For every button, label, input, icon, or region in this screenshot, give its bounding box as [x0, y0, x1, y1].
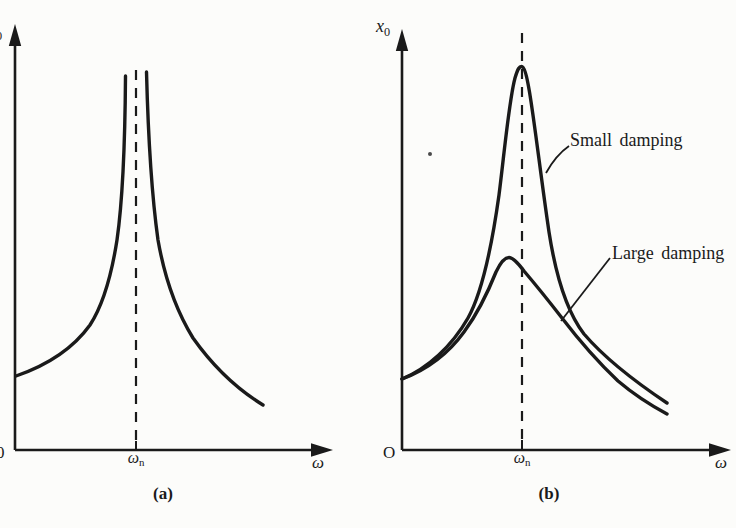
panel-b-x-axis-label: ω	[715, 454, 727, 473]
panel-b-large-damping-curve	[402, 258, 667, 415]
large-damping-annotation: Large damping	[612, 244, 724, 264]
small-damping-leader-line	[546, 146, 569, 173]
panel-a-y-axis-label: x0	[0, 21, 2, 43]
print-speck	[428, 152, 432, 156]
panel-b-wn-label: ωn	[502, 449, 542, 469]
panel-a-undamped-curve-right-branch	[147, 72, 264, 405]
panel-a	[9, 24, 333, 457]
panel-b-y-axis-arrowhead	[396, 29, 408, 51]
panel-a-y-axis-arrowhead	[9, 24, 21, 46]
panel-a-undamped-curve-left-branch	[16, 76, 126, 376]
figure-strokes	[0, 0, 736, 528]
panel-b-small-damping-curve	[402, 67, 667, 404]
panel-a-caption: (a)	[138, 485, 188, 504]
panel-b-y-axis-label: x0	[376, 17, 390, 39]
small-damping-annotation: Small damping	[570, 131, 683, 151]
panel-a-wn-label: ωn	[116, 449, 156, 469]
panel-b-origin-label: O	[383, 444, 395, 463]
panel-a-origin-label: 0	[0, 444, 5, 463]
figure: x0 0 ωn ω (a) x0 O ωn ω (b) Small dampin…	[0, 0, 736, 528]
large-damping-leader-line	[561, 258, 610, 321]
panel-a-x-axis-label: ω	[312, 454, 324, 473]
panel-b-caption: (b)	[524, 485, 574, 504]
